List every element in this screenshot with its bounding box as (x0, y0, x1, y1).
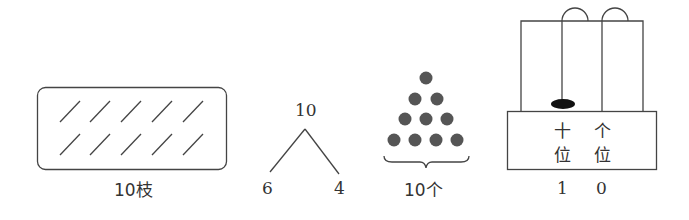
tens-rod-cap (562, 8, 588, 21)
bond-left-part: 6 (262, 178, 273, 198)
sticks-box (38, 88, 227, 170)
dots-label: 10个 (404, 176, 443, 201)
abacus-base (508, 112, 657, 170)
bond-right-part: 4 (334, 178, 345, 198)
brace-icon (384, 156, 469, 168)
sticks-figure (38, 88, 227, 170)
tens-label-2: 位 (554, 141, 571, 166)
ones-rod-cap (602, 8, 628, 21)
sticks (60, 101, 203, 155)
sticks-label: 10枝 (114, 176, 153, 201)
abacus-figure (508, 8, 657, 170)
number-bond-lines (270, 129, 339, 174)
tens-label-1: 十 (554, 117, 571, 142)
ones-digit: 0 (596, 178, 607, 198)
ones-label-1: 个 (594, 117, 611, 142)
tens-digit: 1 (557, 178, 568, 198)
tens-bead (551, 99, 575, 109)
bond-whole: 10 (295, 100, 317, 120)
abacus-frame (521, 21, 643, 111)
dots-figure (388, 72, 464, 147)
ones-label-2: 位 (594, 141, 611, 166)
